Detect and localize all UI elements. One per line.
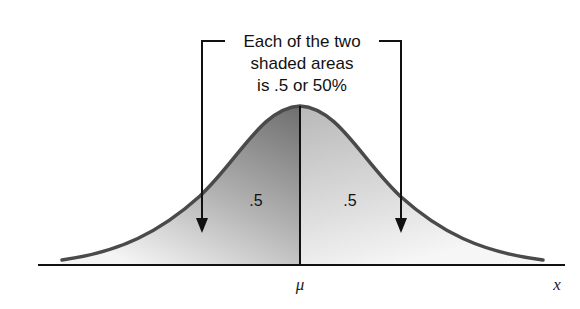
caption-line-3: is .5 or 50% <box>257 76 347 95</box>
x-axis-label: x <box>552 275 561 294</box>
left-shaded-area <box>62 106 300 265</box>
left-area-label: .5 <box>249 192 262 209</box>
mean-label: μ <box>295 275 305 294</box>
right-area-label: .5 <box>343 192 356 209</box>
normal-distribution-diagram: Each of the two shaded areas is .5 or 50… <box>0 0 580 309</box>
right-shaded-area <box>300 106 543 265</box>
caption-line-2: shaded areas <box>250 54 353 73</box>
caption-line-1: Each of the two <box>243 32 360 51</box>
